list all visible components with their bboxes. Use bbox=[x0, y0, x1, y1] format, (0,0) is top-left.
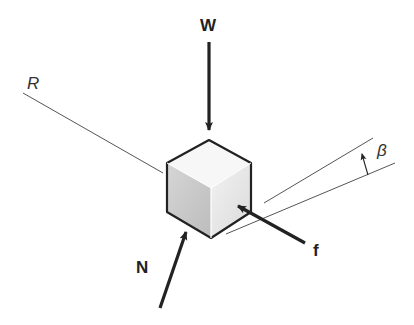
normal-label: N bbox=[136, 259, 148, 276]
resultant-line bbox=[23, 93, 163, 173]
reference-line-upper bbox=[264, 138, 373, 203]
diagram-canvas bbox=[0, 0, 414, 325]
friction-label: f bbox=[313, 242, 319, 259]
resultant-label: R bbox=[27, 75, 39, 92]
normal-arrow bbox=[160, 232, 186, 308]
angle-label: β bbox=[377, 142, 387, 159]
weight-label: W bbox=[200, 17, 216, 34]
force-diagram: W R β N f bbox=[0, 0, 414, 325]
angle-arrow bbox=[362, 154, 368, 175]
cube bbox=[167, 140, 251, 238]
